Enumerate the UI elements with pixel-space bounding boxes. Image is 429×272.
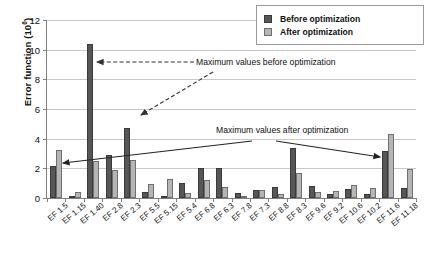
bar-group — [287, 20, 305, 198]
bar-after — [204, 180, 210, 198]
y-axis-tick-label: 4 — [35, 133, 40, 144]
y-axis-tick-label: 10 — [29, 44, 40, 55]
bar-after — [112, 170, 118, 198]
y-axis-tick-label: 2 — [35, 163, 40, 174]
x-axis-tick — [416, 198, 417, 202]
bar-after — [351, 185, 357, 198]
bar-after — [130, 160, 136, 198]
bar-after — [167, 179, 173, 198]
bar-group — [47, 20, 65, 198]
bar-after — [333, 191, 339, 198]
bar-group — [139, 20, 157, 198]
x-axis-labels: EF 1.5EF 1.15EF 1.40EF 2.8EF 2.3EF 5.5EF… — [46, 201, 416, 263]
plot-area: 024681012 — [46, 20, 416, 199]
bar-after — [241, 196, 247, 198]
bar-after — [278, 194, 284, 198]
chart-root: Error function (106) 024681012 EF 1.5EF … — [0, 0, 429, 272]
annotation-max-after: Maximum values after optimization — [216, 125, 348, 135]
legend-item-before: Before optimization — [264, 14, 416, 24]
bar-group — [398, 20, 416, 198]
bar-group — [65, 20, 83, 198]
x-axis-label: EF 5.4 — [175, 201, 199, 223]
bar-group — [176, 20, 194, 198]
bar-group — [158, 20, 176, 198]
bar-group — [213, 20, 231, 198]
bar-after — [56, 150, 62, 198]
bar-group — [195, 20, 213, 198]
y-axis-tick-label: 0 — [35, 193, 40, 204]
legend: Before optimization After optimization — [256, 5, 424, 45]
bar-group — [121, 20, 139, 198]
bar-after — [93, 161, 99, 198]
legend-label-before: Before optimization — [280, 14, 360, 24]
bar-after — [315, 192, 321, 198]
bar-after — [370, 188, 376, 198]
bar-after — [407, 169, 413, 198]
bar-group — [361, 20, 379, 198]
y-axis-title-text: Error function (10 — [22, 25, 33, 107]
bar-after — [222, 187, 228, 198]
bar-after — [75, 192, 81, 198]
annotation-max-before: Maximum values before optimization — [196, 57, 335, 67]
bar-group — [342, 20, 360, 198]
bar-group — [232, 20, 250, 198]
legend-label-after: After optimization — [280, 27, 353, 37]
legend-swatch-before-icon — [264, 15, 272, 23]
bar-after — [148, 184, 154, 198]
bar-after — [388, 134, 394, 198]
legend-item-after: After optimization — [264, 27, 416, 37]
y-axis-tick-label: 8 — [35, 74, 40, 85]
legend-swatch-after-icon — [264, 28, 272, 36]
y-axis-tick-label: 12 — [29, 15, 40, 26]
bar-group — [324, 20, 342, 198]
bar-after — [296, 173, 302, 198]
y-axis-tick-label: 6 — [35, 104, 40, 115]
bar-after — [259, 190, 265, 198]
bar-group — [305, 20, 323, 198]
bar-group — [250, 20, 268, 198]
bar-group — [268, 20, 286, 198]
bar-group — [379, 20, 397, 198]
y-axis-title-exponent: 6 — [21, 21, 28, 25]
bar-after — [185, 193, 191, 198]
bar-series-container — [47, 20, 416, 198]
bar-group — [102, 20, 120, 198]
bar-group — [84, 20, 102, 198]
